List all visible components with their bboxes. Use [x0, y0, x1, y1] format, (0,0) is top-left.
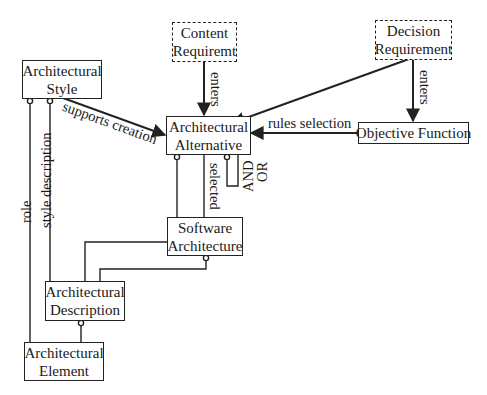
aggregation-marker: [78, 320, 83, 325]
aggregation-marker: [47, 98, 52, 103]
node-label: Content: [181, 24, 229, 42]
node-label: Architectural: [45, 283, 124, 301]
node-label: Architecture: [168, 237, 243, 255]
aggregation-marker: [27, 98, 32, 103]
node-label: Element: [39, 362, 89, 380]
node-label: Architectural: [169, 118, 248, 136]
label-role: role: [18, 200, 34, 223]
aggregation-marker: [224, 154, 229, 159]
node-architectural-description: Architectural Description: [45, 281, 125, 321]
label-style-description: style description: [38, 133, 54, 228]
node-architectural-style: Architectural Style: [22, 60, 102, 99]
node-label: Decision: [387, 22, 440, 40]
node-label: Description: [50, 301, 120, 319]
label-decision-enters: enters: [417, 70, 433, 105]
edge-decision-alternative: [232, 59, 409, 123]
node-label: Objective Function: [356, 124, 471, 142]
node-architectural-alternative: Architectural Alternative: [166, 116, 251, 155]
node-label: Style: [47, 80, 78, 98]
label-selected: selected: [207, 163, 223, 210]
node-label: Architectural: [22, 62, 101, 80]
edge-software-description: [100, 261, 206, 281]
label-content-enters: enters: [208, 72, 224, 107]
label-rules-selection: rules selection: [268, 115, 351, 131]
node-label: Architectural: [24, 344, 103, 362]
node-decision-requirement: Decision Requirement: [375, 20, 452, 60]
edge-alternative-description: [85, 160, 177, 281]
node-label: Requirement: [375, 40, 452, 58]
node-label: Requiremt: [173, 42, 236, 60]
aggregation-marker: [174, 154, 179, 159]
node-label: Alternative: [175, 136, 242, 154]
node-software-architecture: Software Architecture: [167, 217, 243, 256]
node-objective-function: Objective Function: [358, 122, 469, 144]
node-architectural-element: Architectural Element: [24, 342, 104, 381]
node-label: Software: [178, 219, 232, 237]
node-content-requirement: Content Requiremt: [172, 22, 237, 62]
aggregation-marker: [203, 255, 208, 260]
label-or: OR: [254, 162, 270, 182]
